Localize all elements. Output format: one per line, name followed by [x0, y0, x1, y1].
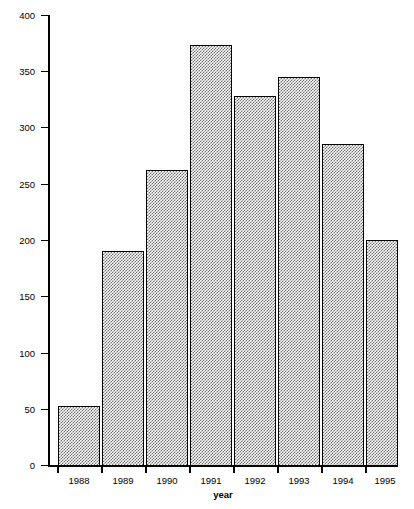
- bar-1989: [102, 251, 144, 466]
- y-tick-label: 100: [0, 349, 35, 359]
- y-tick-label: 250: [0, 180, 35, 190]
- y-tick-label: 50: [0, 405, 35, 415]
- y-tick-mark: [41, 127, 48, 128]
- x-axis-title: year: [48, 489, 398, 500]
- plot-area: no. of ess 400 350 300 250 200 150 100 5…: [0, 0, 414, 509]
- x-tick-mark: [145, 467, 147, 473]
- y-tick-mark: [41, 240, 48, 241]
- y-axis-line: [48, 15, 50, 467]
- y-tick-label: 150: [0, 292, 35, 302]
- y-tick-label: 300: [0, 123, 35, 133]
- bar-1990: [146, 170, 188, 466]
- bar-1994: [322, 144, 364, 466]
- y-tick-mark: [41, 71, 48, 72]
- x-tick-mark: [189, 467, 191, 473]
- y-tick-label: 200: [0, 236, 35, 246]
- bar-1993: [278, 77, 320, 466]
- x-tick-mark: [57, 467, 59, 473]
- bar-1991: [190, 45, 232, 466]
- x-tick-label-1995: 1995: [355, 476, 414, 486]
- x-tick-mark: [365, 467, 367, 473]
- y-tick-mark: [41, 296, 48, 297]
- y-tick-mark: [41, 465, 48, 466]
- y-tick-label: 400: [0, 11, 35, 21]
- bar-1988: [58, 406, 100, 466]
- x-tick-mark: [233, 467, 235, 473]
- bar-1995: [366, 240, 398, 466]
- bar-chart: no. of ess 400 350 300 250 200 150 100 5…: [0, 0, 414, 509]
- bar-1992: [234, 96, 276, 466]
- x-tick-mark: [277, 467, 279, 473]
- x-tick-mark: [101, 467, 103, 473]
- x-tick-mark: [321, 467, 323, 473]
- y-tick-mark: [41, 409, 48, 410]
- y-tick-label: 350: [0, 67, 35, 77]
- y-tick-label: 0: [0, 461, 35, 471]
- y-tick-mark: [41, 184, 48, 185]
- y-tick-mark: [41, 15, 48, 16]
- y-tick-mark: [41, 353, 48, 354]
